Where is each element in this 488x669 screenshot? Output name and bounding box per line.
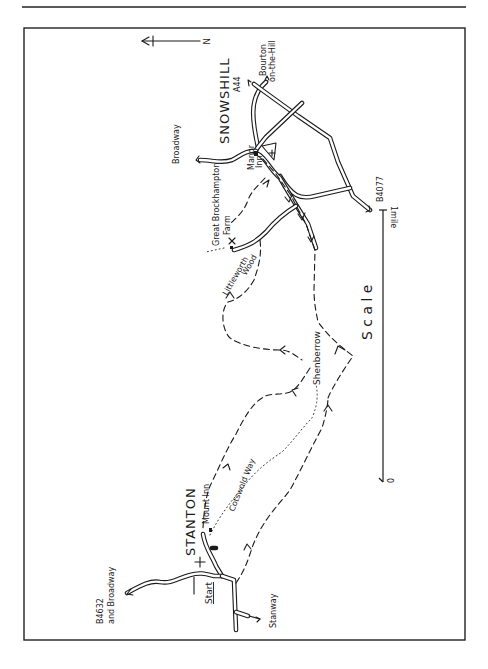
- scale-title: S c a l e: [359, 285, 375, 340]
- scale-min-label: 0: [385, 478, 394, 483]
- label-broadway: Broadway: [172, 124, 181, 164]
- label-snowshill: SNOWSHILL: [217, 58, 232, 144]
- north-label: N: [201, 38, 211, 45]
- mount-inn-building: [209, 528, 212, 532]
- label-b4632: B4632: [96, 598, 105, 624]
- label-great-brockhampton: Great Brockhampton: [212, 163, 221, 246]
- walk-map: N: [0, 0, 488, 669]
- scale-bar: 1mile 0 S c a l e: [359, 206, 398, 483]
- label-shenberrow: Shenberrow: [312, 331, 322, 385]
- label-farm: Farm: [223, 215, 232, 235]
- label-inn-2: Inn: [255, 156, 264, 169]
- north-arrow: N: [142, 36, 211, 46]
- map-labels: SNOWSHILL STANTON Shenberrow Littleworth…: [96, 40, 385, 628]
- label-a44: A44: [233, 76, 242, 92]
- label-cotswold-way: Cotswold Way: [228, 457, 257, 513]
- label-bourton-2: on-the-Hill: [268, 40, 277, 82]
- label-b4077: B4077: [376, 176, 385, 202]
- map-symbols: [194, 143, 276, 594]
- farm-building: [230, 246, 233, 249]
- scale-max-label: 1mile: [389, 206, 398, 228]
- label-bourton-1: Bourton: [259, 44, 268, 76]
- label-stanway: Stanway: [269, 593, 278, 628]
- label-mount-inn: Mount Inn: [202, 484, 211, 524]
- label-and-broadway: and Broadway: [107, 566, 116, 624]
- church-icon: [195, 557, 205, 567]
- farm-cross-icon: [229, 238, 235, 244]
- label-start: Start: [204, 582, 214, 604]
- label-stanton: STANTON: [183, 487, 198, 556]
